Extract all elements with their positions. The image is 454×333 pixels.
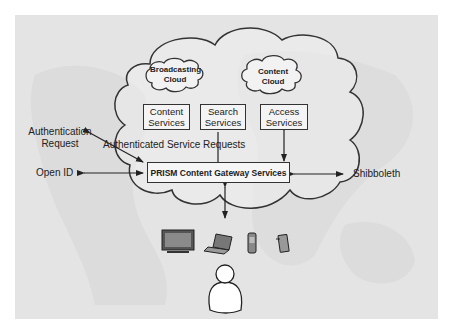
broadcasting-cloud-line2: Cloud — [150, 75, 200, 85]
broadcasting-cloud-label: Broadcasting Cloud — [150, 65, 200, 85]
auth-request-line2: Request — [25, 138, 95, 150]
authenticated-requests-label: Authenticated Service Requests — [103, 139, 245, 151]
tv-icon — [162, 230, 194, 253]
access-services-line1: Access — [266, 106, 302, 117]
search-services-line1: Search — [205, 106, 241, 117]
laptop-icon — [204, 234, 232, 254]
content-cloud-label: Content Cloud — [248, 67, 298, 87]
shibboleth-label: Shibboleth — [353, 168, 400, 180]
content-services-line1: Content — [148, 106, 184, 117]
content-services-line2: Services — [148, 117, 184, 128]
content-cloud-line2: Cloud — [248, 77, 298, 87]
broadcasting-cloud-line1: Broadcasting — [150, 65, 200, 75]
content-cloud-line1: Content — [248, 67, 298, 77]
access-services-box: AccessServices — [260, 104, 308, 130]
open-id-label: Open ID — [36, 167, 73, 179]
mobile-phone-icon — [248, 233, 256, 253]
content-services-box: ContentServices — [143, 104, 190, 130]
pda-icon — [276, 234, 289, 252]
auth-request-line1: Authentication — [25, 126, 95, 138]
user-icon — [209, 265, 242, 313]
auth-request-label: Authentication Request — [25, 126, 95, 150]
search-services-line2: Services — [205, 117, 241, 128]
access-services-line2: Services — [266, 117, 302, 128]
search-services-box: SearchServices — [200, 104, 246, 130]
prism-gateway-box: PRISM Content Gateway Services — [147, 162, 290, 183]
